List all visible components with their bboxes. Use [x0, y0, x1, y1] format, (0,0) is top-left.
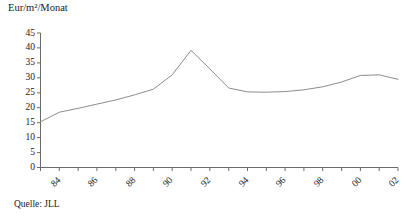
- chart-axes: [37, 33, 398, 171]
- line-chart-plot: [0, 0, 411, 224]
- x-axis-tick-marks: [41, 168, 399, 172]
- source-note: Quelle: JLL: [14, 199, 60, 210]
- chart-figure: Eur/m²/Monat 051015202530354045 84868890…: [0, 0, 411, 224]
- data-series-line: [41, 50, 399, 121]
- y-axis-tick-marks: [37, 33, 41, 168]
